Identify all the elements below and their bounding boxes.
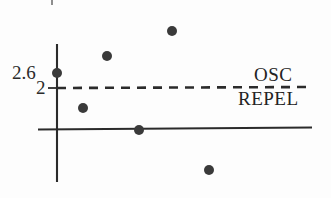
data-point-group [52,26,214,175]
data-point [167,26,177,36]
data-point [134,125,144,135]
scatter-plot-figure: 2.6 2 OSC REPEL [0,0,331,198]
data-point [102,51,112,61]
x-axis-line [38,128,312,130]
region-label-repel: REPEL [238,89,299,108]
y-axis-label-top: 2.6 [12,63,36,82]
region-label-osc: OSC [254,65,292,84]
y-axis-label-threshold: 2 [36,78,46,97]
data-point [52,68,62,78]
data-point [204,165,214,175]
data-point [78,103,88,113]
